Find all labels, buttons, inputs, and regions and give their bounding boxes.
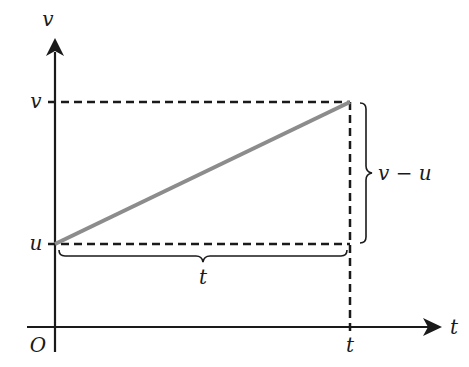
x-axis-label: t (450, 315, 459, 339)
origin-label: O (30, 333, 46, 357)
v-minus-u-label: v − u (378, 161, 432, 185)
u-tick-label: u (30, 231, 43, 255)
y-axis-label: v (42, 7, 54, 31)
v-tick-label: v (30, 89, 42, 113)
horizontal-brace (59, 250, 347, 262)
t-brace-label: t (199, 265, 208, 289)
velocity-time-graph: v t O v u t t v − u (0, 0, 469, 367)
vertical-brace (360, 103, 372, 243)
t-tick-label: t (346, 333, 355, 357)
velocity-line (55, 102, 350, 244)
